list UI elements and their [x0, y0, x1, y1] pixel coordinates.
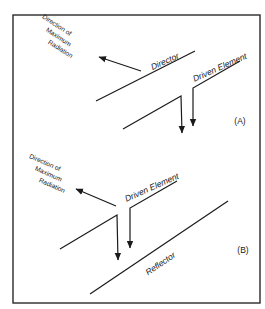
panel-b-tag: (B)	[237, 245, 249, 255]
panel-a-tag: (A)	[234, 116, 246, 126]
figure-frame	[13, 15, 260, 303]
antenna-diagram: Director Driven Element Direction of Max…	[0, 0, 265, 309]
